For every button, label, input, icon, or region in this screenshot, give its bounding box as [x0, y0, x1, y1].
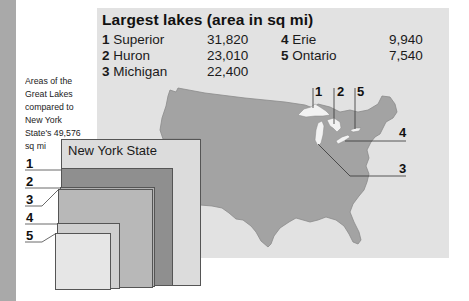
map-label-erie: 4 — [399, 125, 406, 140]
map-label-ontario: 5 — [357, 84, 364, 99]
box-label-huron: 2 — [26, 174, 33, 189]
map-label-superior: 1 — [315, 84, 322, 99]
new-york-state-label: New York State — [68, 143, 157, 158]
lake-ontario-box — [55, 233, 111, 290]
box-label-michigan: 3 — [26, 192, 33, 207]
map-label-huron: 2 — [337, 84, 344, 99]
box-label-erie: 4 — [26, 210, 33, 225]
map-label-michigan: 3 — [399, 161, 406, 176]
box-label-ontario: 5 — [26, 228, 33, 243]
box-label-superior: 1 — [26, 156, 33, 171]
